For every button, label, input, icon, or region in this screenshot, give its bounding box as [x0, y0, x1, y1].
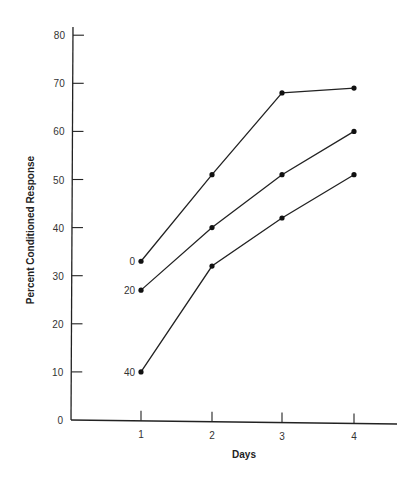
data-point — [209, 172, 214, 177]
y-tick-label: 20 — [52, 319, 64, 330]
x-axis — [71, 420, 397, 424]
data-point — [209, 263, 214, 268]
y-tick-label: 50 — [53, 175, 65, 186]
y-axis — [71, 27, 73, 420]
series-line — [141, 88, 354, 261]
x-axis-ticks: 1234 — [138, 411, 357, 443]
data-point — [279, 90, 284, 95]
series-20: 20 — [124, 129, 357, 296]
x-tick-label: 4 — [351, 431, 357, 442]
x-tick-label: 1 — [138, 429, 144, 440]
series-line — [141, 175, 354, 372]
y-tick-label: 60 — [53, 126, 65, 137]
series-line — [141, 131, 354, 290]
data-point — [279, 215, 284, 220]
y-axis-ticks: 01020304050607080 — [52, 30, 84, 426]
x-tick-label: 2 — [209, 430, 215, 441]
y-tick-label: 0 — [57, 415, 63, 426]
x-axis-title: Days — [232, 449, 256, 460]
data-point — [138, 288, 143, 293]
y-tick-label: 10 — [52, 367, 64, 378]
y-tick-label: 30 — [53, 271, 65, 282]
data-point — [138, 259, 143, 264]
series-label: 20 — [124, 285, 136, 296]
data-point — [138, 369, 143, 374]
x-tick-label: 3 — [279, 431, 285, 442]
series-label: 40 — [124, 367, 136, 378]
series-0: 0 — [129, 86, 356, 268]
data-point — [351, 86, 356, 91]
y-axis-title: Percent Conditioned Response — [25, 155, 36, 304]
series-lines: 02040 — [124, 86, 357, 378]
y-tick-label: 80 — [54, 30, 66, 41]
data-point — [351, 129, 356, 134]
y-tick-label: 70 — [54, 78, 66, 89]
data-point — [209, 225, 214, 230]
data-point — [351, 172, 356, 177]
line-chart: 01020304050607080 1234 02040 Days Percen… — [0, 0, 417, 484]
data-point — [279, 172, 284, 177]
series-label: 0 — [129, 256, 135, 267]
y-tick-label: 40 — [53, 223, 65, 234]
